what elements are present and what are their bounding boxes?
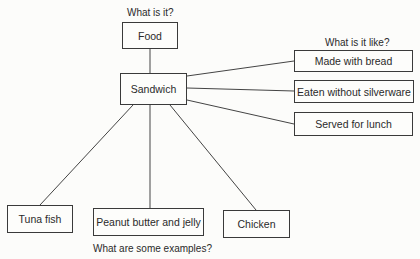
- prompt-examples: What are some examples?: [93, 243, 212, 254]
- edge-sandwich-made: [187, 61, 294, 76]
- node-sandwich: Sandwich: [120, 73, 187, 105]
- prompt-what-is-it: What is it?: [127, 7, 174, 18]
- node-made-with-bread: Made with bread: [294, 50, 413, 72]
- node-served-for-lunch: Served for lunch: [294, 112, 413, 136]
- edge-sandwich-served: [187, 100, 294, 124]
- edge-sandwich-eaten: [187, 88, 294, 91]
- node-peanut-butter-and-jelly: Peanut butter and jelly: [93, 208, 204, 236]
- node-food: Food: [122, 22, 178, 49]
- edge-sandwich-chicken: [170, 105, 256, 210]
- prompt-what-is-it-like: What is it like?: [325, 37, 389, 48]
- node-chicken: Chicken: [223, 210, 290, 238]
- node-eaten-without-silverware: Eaten without silverware: [294, 80, 414, 103]
- node-tuna-fish: Tuna fish: [7, 205, 73, 233]
- edge-sandwich-tuna: [40, 105, 133, 205]
- concept-map: What is it? Food Sandwich What is it lik…: [0, 0, 420, 259]
